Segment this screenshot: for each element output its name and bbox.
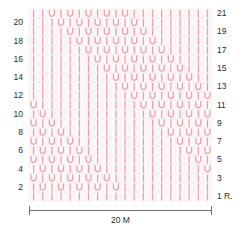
row-label-left: 10 <box>14 110 23 119</box>
row-label-left: 20 <box>14 18 23 27</box>
row-labels-left: 2018161412108642 <box>0 10 26 200</box>
row-label-right: 7 <box>217 137 222 146</box>
row-label-right: 11 <box>217 101 226 110</box>
row-label-left: 8 <box>18 128 23 137</box>
row-label-left: 18 <box>14 37 23 46</box>
row-label-right: 19 <box>217 27 226 36</box>
knitting-chart: 2018161412108642 21191715131197531 R. 20… <box>0 0 252 229</box>
row-label-right: 13 <box>217 82 226 91</box>
scale-cap-end <box>211 206 212 215</box>
row-labels-right: 21191715131197531 R. <box>213 10 252 200</box>
row-label-left: 12 <box>14 91 23 100</box>
row-label-right: 17 <box>217 46 226 55</box>
stitch-grid-canvas <box>29 9 212 201</box>
row-label-left: 6 <box>18 146 23 155</box>
row-label-left: 4 <box>18 165 23 174</box>
row-label-right: 9 <box>217 119 222 128</box>
row-label-right: 1 R. <box>217 192 233 201</box>
row-label-right: 3 <box>217 174 222 183</box>
row-label-right: 5 <box>217 155 222 164</box>
scale-label: 20 M <box>29 215 212 225</box>
row-label-right: 15 <box>217 64 226 73</box>
stitch-grid <box>29 9 212 201</box>
row-label-left: 16 <box>14 55 23 64</box>
row-label-right: 21 <box>217 9 226 18</box>
scale-line <box>29 210 212 211</box>
width-scale: 20 M <box>29 206 212 228</box>
row-label-left: 2 <box>18 183 23 192</box>
row-label-left: 14 <box>14 73 23 82</box>
scale-cap-start <box>29 206 30 215</box>
